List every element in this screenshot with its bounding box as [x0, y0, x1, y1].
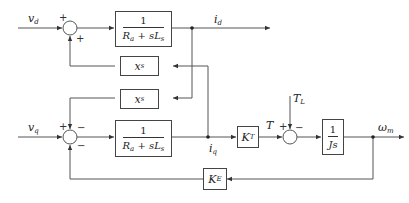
sign-sum1-left: + [59, 13, 67, 23]
block-xs-bottom: xs [120, 89, 159, 109]
node-id [190, 26, 194, 30]
block-d-axis-plant: 1 Ra + sLs [115, 11, 172, 47]
block-q-axis-plant: 1 Ra + sLs [115, 120, 172, 157]
sign-sum3-top: − [295, 123, 303, 133]
summing-junction-q [63, 130, 77, 144]
label-wm: ωm [378, 122, 394, 135]
block-KT: KT [237, 126, 259, 148]
label-TL: TL [293, 93, 305, 106]
node-iq [206, 135, 210, 139]
block-mechanical: 1 Js [322, 119, 344, 155]
label-vd: vd [28, 13, 39, 26]
label-torque: T [266, 120, 273, 131]
label-id: id [214, 14, 222, 27]
block-KE: KE [203, 168, 227, 190]
label-iq: iq [209, 143, 217, 156]
block-xs-top: xs [120, 56, 159, 76]
sign-sum2-bottom: − [77, 141, 85, 151]
block-diagram: vd vq id iq T TL ωm + + + − − + − 1 Ra +… [0, 0, 409, 203]
sign-sum2-left: + [59, 122, 67, 132]
sign-sum2-top: − [77, 123, 85, 133]
node-wm [371, 135, 375, 139]
summing-junction-d [63, 21, 77, 35]
sign-sum3-left: + [279, 122, 287, 132]
sign-sum1-bottom: + [76, 34, 84, 44]
label-vq: vq [28, 122, 39, 135]
